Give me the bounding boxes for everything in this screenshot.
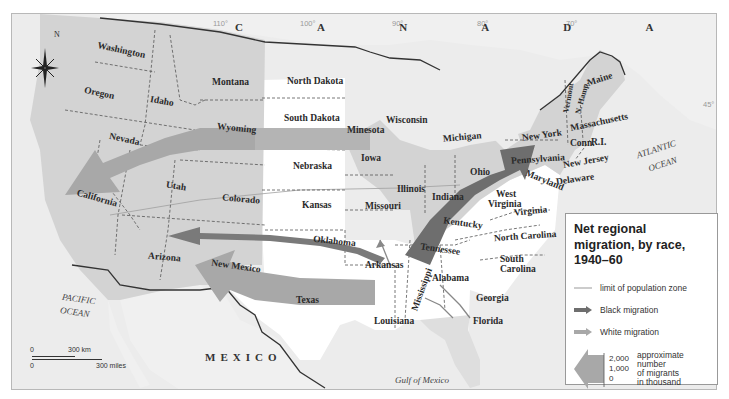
size-scale-arrow-icon <box>574 349 606 389</box>
thin-line-icon <box>574 286 600 290</box>
state-label: Missouri <box>365 202 401 212</box>
legend-item-population-limit: limit of population zone <box>574 277 709 299</box>
state-label: Alabama <box>432 274 469 284</box>
dark-arrow-icon <box>574 306 600 314</box>
legend-label: limit of population zone <box>600 283 687 293</box>
state-label: North Dakota <box>287 77 343 87</box>
state-label: Texas <box>296 296 319 306</box>
light-arrow-icon <box>574 328 600 336</box>
latitude-45: 45° <box>703 100 714 109</box>
state-label: Nebraska <box>293 162 332 172</box>
state-label: Kansas <box>302 201 332 211</box>
state-label: Minesota <box>347 126 384 136</box>
legend-item-white-migration: White migration <box>574 321 709 343</box>
scale-km-label: 300 km <box>68 346 91 353</box>
compass-north-label: N <box>54 31 60 39</box>
legend-title: Net regional migration, by race, 1940–60 <box>574 222 709 269</box>
scale-ticks: 2,000 1,000 0 <box>609 354 629 383</box>
scale-mi-label: 300 miles <box>96 362 126 369</box>
longitude-110: 110° <box>213 19 228 28</box>
state-label: Carolina <box>500 265 536 275</box>
state-label: Wisconsin <box>386 116 428 126</box>
state-label: R.I. <box>591 138 606 148</box>
state-label: Florida <box>473 317 503 327</box>
scale-note: approximate number of migrants in thousa… <box>637 351 684 387</box>
ocean-label-gulf: Gulf of Mexico <box>395 376 449 385</box>
state-label: Georgia <box>476 294 509 304</box>
legend-label: Black migration <box>600 305 658 315</box>
legend-label: White migration <box>600 327 659 337</box>
state-label: Arkansas <box>365 261 404 271</box>
state-label: Iowa <box>361 154 381 164</box>
scale-mi-zero: 0 <box>30 362 34 369</box>
state-label: Virginia <box>488 200 521 210</box>
country-label-mexico: MEXICO <box>205 352 281 363</box>
scale-km-zero: 0 <box>30 346 34 353</box>
state-label: South Dakota <box>284 114 340 124</box>
country-label-canada: C A N A D A <box>235 22 689 33</box>
state-label: Illinois <box>397 185 425 195</box>
scale-mi-bar <box>32 359 102 360</box>
map-legend: Net regional migration, by race, 1940–60… <box>565 213 718 385</box>
state-label: Montana <box>212 78 249 88</box>
legend-size-scale: 2,000 1,000 0 approximate number of migr… <box>574 349 709 389</box>
state-label: Louisiana <box>374 317 414 327</box>
state-label: Ohio <box>470 168 490 178</box>
state-label: Indiana <box>432 193 464 203</box>
scale-km-bar <box>32 356 75 357</box>
legend-item-black-migration: Black migration <box>574 299 709 321</box>
